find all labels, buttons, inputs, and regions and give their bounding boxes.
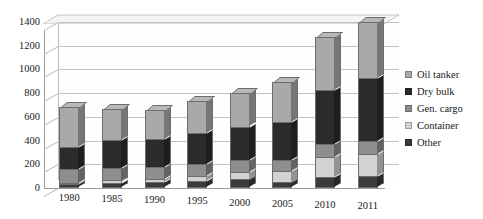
bar-segment-side-face: [164, 136, 171, 167]
x-axis-tick-label: 2010: [304, 199, 347, 211]
bar-segment-gen-cargo: [187, 164, 207, 176]
bar-segment-side-face: [206, 130, 213, 164]
bar-segment-side-face: [249, 91, 256, 127]
legend-item-oil-tanker[interactable]: Oil tanker: [405, 66, 483, 83]
bar-segment-other: [272, 182, 292, 188]
legend-item-other[interactable]: Other: [405, 134, 483, 151]
legend-swatch-icon: [405, 88, 412, 95]
bar-group: [44, 22, 399, 188]
legend-swatch-icon: [405, 122, 412, 129]
bar-segment-side-face: [121, 137, 128, 167]
bar-segment-side-face: [121, 106, 128, 140]
bar-segment-other: [59, 184, 79, 188]
bar-2000: [230, 93, 250, 188]
bar-segment-gen-cargo: [230, 160, 250, 172]
x-axis-tick-label: 1980: [48, 192, 91, 204]
y-axis-labels: 1400120010008006004002000: [0, 22, 40, 188]
x-axis-tick-label: 1990: [133, 194, 176, 206]
x-axis-tick-label: 2000: [219, 197, 262, 209]
legend-label: Oil tanker: [417, 69, 459, 80]
bar-segment-side-face: [334, 87, 341, 144]
bar-1985: [102, 109, 122, 188]
bar-segment-oil-tanker: [315, 37, 335, 90]
legend-item-gen-cargo[interactable]: Gen. cargo: [405, 100, 483, 117]
bar-segment-gen-cargo: [59, 169, 79, 183]
bar-segment-container: [315, 157, 335, 177]
legend-swatch-icon: [405, 105, 412, 112]
y-axis-tick-label: 1200: [0, 41, 40, 51]
bar-segment-dry-bulk: [358, 78, 378, 141]
y-axis-tick-label: 1000: [0, 64, 40, 74]
bar-2010: [315, 37, 335, 188]
legend-swatch-icon: [405, 139, 412, 146]
bar-segment-oil-tanker: [102, 109, 122, 140]
bar-segment-side-face: [78, 104, 85, 147]
bar-segment-other: [145, 182, 165, 188]
stacked-bar-chart: 1400120010008006004002000 19801985199019…: [0, 0, 483, 219]
bar-1990: [145, 110, 165, 188]
bar-segment-side-face: [377, 75, 384, 141]
bar-segment-side-face: [377, 173, 384, 187]
legend-label: Gen. cargo: [417, 103, 463, 114]
legend-label: Container: [417, 120, 458, 131]
bar-segment-side-face: [291, 119, 298, 160]
bar-segment-oil-tanker: [187, 101, 207, 133]
bar-segment-side-face: [206, 98, 213, 133]
bar-segment-container: [230, 172, 250, 180]
bar-segment-other: [187, 181, 207, 188]
legend-item-dry-bulk[interactable]: Dry bulk: [405, 83, 483, 100]
bar-1980: [59, 107, 79, 188]
bar-1995: [187, 101, 207, 188]
bar-segment-side-face: [334, 174, 341, 187]
legend-swatch-icon: [405, 71, 412, 78]
bar-segment-side-face: [164, 107, 171, 139]
bar-segment-gen-cargo: [315, 144, 335, 157]
x-axis-tick-label: 2005: [261, 198, 304, 210]
y-axis-tick-label: 0: [0, 183, 40, 193]
x-axis-tick-label: 2011: [346, 200, 389, 212]
bar-segment-oil-tanker: [145, 110, 165, 139]
bar-segment-dry-bulk: [59, 147, 79, 169]
legend-item-container[interactable]: Container: [405, 117, 483, 134]
bar-2005: [272, 82, 292, 188]
x-axis-line: [44, 188, 385, 189]
y-axis-tick-label: 1400: [0, 17, 40, 27]
bar-segment-other: [358, 176, 378, 188]
bar-segment-gen-cargo: [358, 141, 378, 154]
bar-segment-dry-bulk: [272, 122, 292, 160]
bar-segment-dry-bulk: [145, 139, 165, 167]
bar-segment-gen-cargo: [145, 167, 165, 179]
y-axis-tick-label: 800: [0, 88, 40, 98]
bar-segment-oil-tanker: [358, 22, 378, 78]
bar-segment-dry-bulk: [187, 133, 207, 164]
bar-segment-gen-cargo: [272, 160, 292, 171]
bar-segment-gen-cargo: [102, 168, 122, 181]
legend-label: Dry bulk: [417, 86, 455, 97]
legend-label: Other: [417, 137, 441, 148]
x-axis-tick-label: 1985: [91, 193, 134, 205]
bar-segment-side-face: [334, 34, 341, 90]
bar-segment-oil-tanker: [230, 93, 250, 126]
y-axis-tick-label: 200: [0, 159, 40, 169]
x-axis-labels: 19801985199019952000200520102011: [44, 192, 399, 212]
bar-segment-dry-bulk: [102, 140, 122, 168]
bar-segment-side-face: [291, 79, 298, 122]
x-axis-tick-label: 1995: [176, 195, 219, 207]
bar-segment-dry-bulk: [315, 90, 335, 144]
y-axis-tick-label: 400: [0, 136, 40, 146]
bar-2011: [358, 22, 378, 188]
chart-legend: Oil tankerDry bulkGen. cargoContainerOth…: [405, 66, 483, 151]
bar-segment-oil-tanker: [59, 107, 79, 147]
bar-segment-oil-tanker: [272, 82, 292, 122]
bar-segment-other: [102, 183, 122, 188]
bar-segment-other: [315, 177, 335, 188]
bar-segment-container: [358, 154, 378, 176]
bar-segment-dry-bulk: [230, 127, 250, 160]
bar-segment-side-face: [249, 124, 256, 160]
bar-segment-other: [230, 179, 250, 188]
bar-segment-side-face: [377, 19, 384, 78]
y-axis-tick-label: 600: [0, 112, 40, 122]
bar-segment-container: [272, 171, 292, 183]
